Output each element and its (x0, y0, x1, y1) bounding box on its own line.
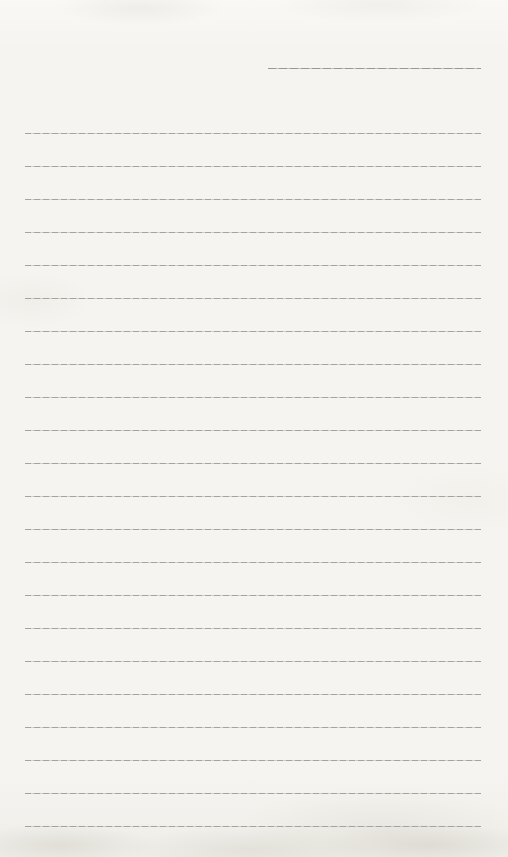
ruled-line (25, 265, 481, 266)
ruled-line (25, 166, 481, 167)
ruled-line (25, 595, 481, 596)
header-writing-line (268, 68, 481, 69)
ruled-line (25, 826, 481, 827)
ruled-line (25, 727, 481, 728)
ruled-line (25, 199, 481, 200)
ruled-line (25, 793, 481, 794)
ruled-line (25, 628, 481, 629)
ruled-line (25, 364, 481, 365)
ruled-line (25, 562, 481, 563)
ruled-line (25, 463, 481, 464)
ruled-line (25, 760, 481, 761)
ruled-line (25, 298, 481, 299)
ruled-line (25, 133, 481, 134)
ruled-line (25, 331, 481, 332)
ruled-line (25, 529, 481, 530)
ruled-line (25, 430, 481, 431)
ruled-line (25, 232, 481, 233)
notepad-page (0, 0, 508, 857)
ruled-line (25, 661, 481, 662)
ruled-line (25, 397, 481, 398)
ruled-line (25, 496, 481, 497)
ruled-line (25, 694, 481, 695)
